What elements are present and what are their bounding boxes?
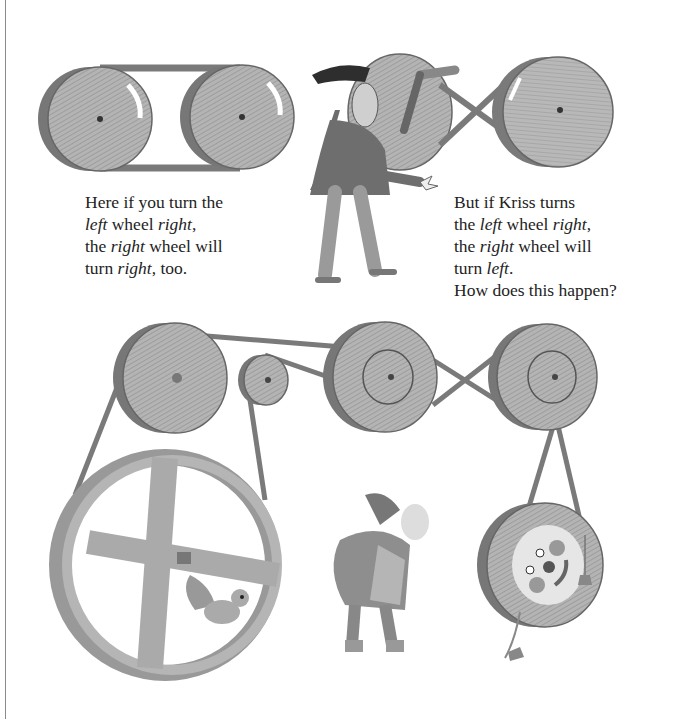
caption-line: the right wheel will <box>454 235 617 257</box>
squirrel <box>186 575 249 624</box>
body-text: , <box>587 214 591 234</box>
body-text: wheel will <box>145 236 223 256</box>
body-text: the <box>454 214 480 234</box>
caption-line: Here if you turn the <box>85 191 223 213</box>
caption-question: How does this happen? <box>454 279 617 301</box>
body-text: . <box>509 258 513 278</box>
body-text: But if Kriss turns <box>454 192 575 212</box>
emphasis-text: right <box>158 214 192 234</box>
crossed-belt-pulleys <box>348 54 613 170</box>
caption-line: turn right, too. <box>85 257 223 279</box>
caption-line: the right wheel will <box>85 235 223 257</box>
caption-line: turn left. <box>454 257 617 279</box>
emphasis-text: left <box>85 214 107 234</box>
gnome <box>334 493 429 652</box>
body-text: , <box>192 214 196 234</box>
body-text: turn <box>454 258 487 278</box>
hamster-wheel <box>57 457 278 673</box>
body-text: wheel <box>502 214 553 234</box>
body-text: wheel will <box>514 236 592 256</box>
illustration-canvas <box>0 0 675 719</box>
body-text: How does this happen? <box>454 280 617 300</box>
body-text: turn <box>85 258 118 278</box>
caption-line: left wheel right, <box>85 213 223 235</box>
face-wheel <box>477 503 603 661</box>
caption-line: the left wheel right, <box>454 213 617 235</box>
body-text: , too. <box>152 258 188 278</box>
caption-line: But if Kriss turns <box>454 191 617 213</box>
emphasis-text: right <box>111 236 145 256</box>
body-text: wheel <box>107 214 158 234</box>
body-text: the <box>454 236 480 256</box>
emphasis-text: right <box>118 258 152 278</box>
caption-crossed-belt: But if Kriss turns the left wheel right,… <box>454 191 617 301</box>
emphasis-text: left <box>480 214 502 234</box>
open-belt-pulleys <box>38 65 294 171</box>
emphasis-text: right <box>480 236 514 256</box>
caption-open-belt: Here if you turn the left wheel right, t… <box>85 191 223 279</box>
emphasis-text: right <box>553 214 587 234</box>
emphasis-text: left <box>487 258 509 278</box>
body-text: Here if you turn the <box>85 192 223 212</box>
body-text: the <box>85 236 111 256</box>
